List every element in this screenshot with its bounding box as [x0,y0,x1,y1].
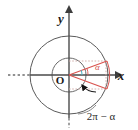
two-pi-minus-alpha-label: 2π − α [87,110,116,122]
y-axis-label: y [56,11,64,26]
alpha-angle-tick [81,70,82,75]
sweep-direction-arrow [82,85,96,92]
diagram-canvas: x y O α 2π − α [0,0,138,130]
alpha-angle-label: α [95,62,100,72]
alpha-angle-arc [87,68,88,75]
origin-label: O [56,74,65,86]
sweep-arrow-group [82,85,96,92]
x-axis-label: x [117,68,125,83]
unit-circle-diagram: x y O α 2π − α [0,0,138,130]
ray-alpha-negative [69,75,107,89]
